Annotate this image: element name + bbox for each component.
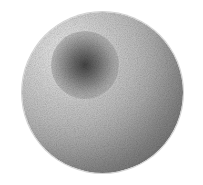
dither-highlight-overlay xyxy=(22,12,183,173)
shaded-sphere xyxy=(22,12,183,173)
figure-canvas xyxy=(0,0,203,185)
